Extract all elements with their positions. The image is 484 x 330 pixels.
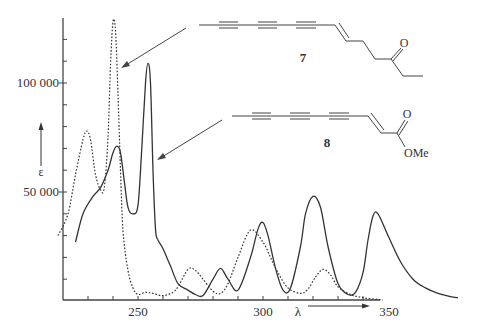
arrow-up-icon bbox=[39, 122, 44, 130]
series-7-dotted-curve bbox=[58, 19, 383, 300]
arrow-right-icon bbox=[362, 304, 370, 309]
y-axis-label: ε bbox=[38, 165, 43, 179]
structure-8-label: 8 bbox=[324, 135, 331, 150]
y-tick-label-50000: 50 000 bbox=[23, 184, 59, 199]
x-axis-label: λ bbox=[295, 304, 302, 319]
arrow-head-icon bbox=[157, 153, 166, 160]
x-axis-label-arrow: λ bbox=[295, 304, 370, 320]
x-tick-label-300: 300 bbox=[253, 304, 273, 319]
uv-spectrum-chart: 100 000 50 000 250 300 350 ε λ bbox=[0, 0, 484, 330]
annotation-arrow-7 bbox=[121, 28, 186, 68]
structure-8 bbox=[232, 113, 408, 147]
arrow-head-icon bbox=[121, 61, 130, 68]
structure-7-label: 7 bbox=[300, 50, 307, 65]
structure-7-carbonyl-oxygen: O bbox=[400, 36, 409, 50]
y-tick-label-100000: 100 000 bbox=[17, 75, 59, 90]
structure-8-ester-group: OMe bbox=[404, 146, 429, 160]
x-tick-label-350: 350 bbox=[379, 304, 399, 319]
annotation-arrow-8 bbox=[157, 120, 222, 160]
structure-8-carbonyl-oxygen: O bbox=[403, 107, 412, 121]
series-8-solid-curve bbox=[76, 63, 459, 297]
y-axis-label-arrow: ε bbox=[38, 122, 43, 179]
x-tick-label-250: 250 bbox=[128, 304, 148, 319]
structure-7 bbox=[199, 22, 423, 76]
